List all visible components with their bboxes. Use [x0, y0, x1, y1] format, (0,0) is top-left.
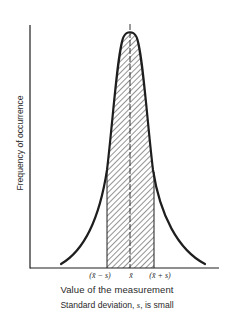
- caption-suffix: , is small: [140, 300, 173, 310]
- x-axis-label: Value of the measurement: [60, 284, 173, 295]
- caption-prefix: Standard deviation,: [60, 300, 136, 310]
- tick-label-minus-s: (x̄ − s): [89, 271, 110, 280]
- figure-caption: Standard deviation, s, is small: [60, 300, 173, 310]
- normal-distribution-diagram: [0, 0, 234, 319]
- y-axis-label: Frequency of occurrence: [15, 95, 25, 190]
- tick-label-plus-s: (x̄ + s): [149, 271, 170, 280]
- tick-label-mean: x̄: [129, 271, 133, 280]
- shaded-one-sigma-region: [61, 32, 205, 268]
